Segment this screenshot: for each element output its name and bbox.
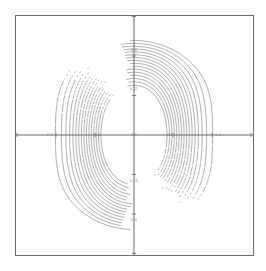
contour-line — [89, 96, 90, 99]
contour-line — [99, 115, 100, 121]
contour-line — [175, 190, 176, 192]
contour-line — [92, 90, 93, 92]
contour-line — [194, 184, 195, 186]
contour-line — [62, 81, 63, 84]
contour-level-label: 0.25 — [130, 179, 138, 183]
contour-line — [72, 75, 73, 77]
contour-line — [203, 189, 204, 192]
contour-line — [94, 98, 95, 100]
contour-line — [70, 78, 71, 80]
contour-line — [173, 176, 174, 178]
contour-line — [93, 101, 94, 104]
contour-line — [68, 83, 69, 85]
contour-line — [190, 172, 191, 176]
contour-line — [211, 145, 212, 165]
contour-line — [182, 151, 183, 160]
contour-line — [101, 110, 102, 115]
contour-line — [171, 172, 172, 175]
contour-line — [174, 180, 175, 182]
contour-line — [68, 99, 69, 106]
contour-line — [85, 99, 86, 103]
contour-line — [74, 80, 75, 83]
contour-line — [187, 180, 188, 183]
contour-line — [177, 152, 178, 159]
contour-line — [101, 81, 102, 82]
contour-line — [66, 74, 67, 76]
contour-line — [166, 155, 167, 159]
contour-line — [89, 77, 90, 79]
contour-line — [55, 125, 130, 229]
contour-line — [81, 103, 82, 108]
contour-line — [161, 163, 162, 165]
contour-line — [91, 86, 92, 88]
contour-line — [168, 160, 169, 163]
contour-line — [169, 164, 170, 167]
contour-line — [172, 165, 173, 168]
contour-line — [193, 197, 194, 199]
contour-level-label: 0.1 — [215, 133, 221, 137]
contour-line — [171, 190, 172, 192]
contour-line — [178, 185, 179, 187]
contour-line — [195, 163, 196, 170]
contour-line — [202, 175, 203, 180]
contour-line — [70, 107, 71, 119]
contour-line — [88, 73, 89, 75]
contour-line — [80, 78, 81, 79]
contour-line — [58, 91, 59, 96]
contour-line — [82, 89, 83, 92]
contour-line — [179, 165, 180, 170]
contour-line — [102, 115, 103, 121]
contour-line — [77, 107, 78, 116]
contour-line — [201, 148, 202, 162]
contour-line — [127, 85, 167, 147]
contour-line — [101, 122, 127, 184]
contour-line — [84, 104, 85, 110]
contour-line — [172, 179, 173, 181]
contour-line — [196, 181, 197, 184]
contour-line — [172, 185, 173, 186]
contour-line — [177, 165, 178, 169]
contour-line — [188, 197, 189, 198]
contour-line — [109, 100, 110, 102]
contour-line — [164, 155, 165, 158]
contour-line — [169, 155, 170, 160]
contour-line — [190, 184, 191, 187]
contour-line — [201, 194, 202, 196]
contour-line — [78, 90, 79, 94]
contour-line — [194, 170, 195, 175]
contour-level-label: 0.2 — [167, 133, 173, 137]
contour-line — [85, 111, 86, 119]
contour-line — [72, 100, 73, 107]
contour-line — [187, 151, 188, 161]
contour-line — [179, 175, 180, 178]
contour-line — [181, 180, 182, 183]
contour-line — [67, 86, 68, 89]
contour-line — [92, 97, 93, 100]
contour-line — [64, 78, 65, 79]
contour-line — [165, 148, 166, 153]
contour-line — [89, 118, 126, 200]
contour-line — [82, 74, 83, 76]
contour-line — [105, 107, 106, 111]
contour-line — [71, 86, 72, 90]
contour-line — [179, 183, 180, 185]
contour-line — [198, 171, 199, 176]
contour-line — [166, 187, 167, 189]
contour-line — [166, 164, 167, 167]
contour-level-label: 0.1 — [131, 133, 137, 137]
contour-line — [177, 174, 178, 177]
contour-line — [86, 95, 87, 99]
contour-line — [69, 80, 70, 82]
contour-line — [186, 161, 187, 166]
contour-line — [160, 166, 161, 168]
contour-line — [189, 163, 190, 169]
contour-line — [154, 174, 155, 175]
contour-line — [85, 77, 86, 79]
contour-line — [104, 111, 105, 115]
contour-line — [85, 90, 86, 93]
contour-line — [87, 87, 88, 89]
contour-line — [165, 179, 166, 181]
contour-plot-canvas: 0.40.250.10.250.40.20.20.10.1 — [0, 0, 266, 271]
contour-line — [100, 99, 101, 101]
contour-line — [62, 102, 63, 112]
